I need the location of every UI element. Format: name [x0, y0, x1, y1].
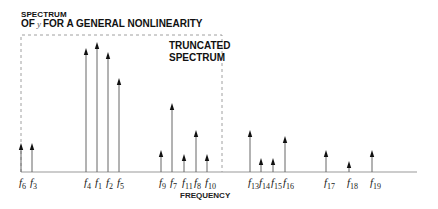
arrowhead-icon	[170, 103, 174, 110]
frequency-label-f8: f8	[194, 176, 201, 191]
arrowhead-icon	[159, 150, 163, 157]
frequency-label-f19: f19	[370, 176, 381, 191]
arrowhead-icon	[194, 130, 198, 137]
frequency-label-f16: f16	[283, 176, 294, 191]
arrowhead-icon	[205, 154, 209, 161]
arrowhead-icon	[324, 150, 328, 157]
frequency-label-f2: f2	[106, 176, 113, 191]
arrowhead-icon	[30, 143, 34, 150]
arrowhead-icon	[271, 158, 275, 165]
arrowhead-icon	[84, 48, 88, 55]
arrowhead-icon	[347, 161, 351, 168]
truncated-label-line2: SPECTRUM	[169, 52, 230, 64]
arrowhead-icon	[370, 150, 374, 157]
arrowhead-icon	[182, 154, 186, 161]
arrowhead-icon	[259, 158, 263, 165]
frequency-label-f3: f3	[30, 176, 37, 191]
truncated-label-line1: TRUNCATED	[169, 40, 230, 52]
frequency-label-f7: f7	[170, 176, 177, 191]
frequency-label-f11: f11	[182, 176, 193, 191]
spectrum-diagram: SPECTRUM OFyFOR A GENERAL NONLINEARITY T…	[0, 0, 438, 209]
frequency-label-f6: f6	[19, 176, 26, 191]
arrowhead-icon	[106, 52, 110, 59]
truncated-spectrum-label: TRUNCATED SPECTRUM	[169, 40, 230, 64]
arrowhead-icon	[95, 42, 99, 49]
frequency-label-f18: f18	[347, 176, 358, 191]
frequency-label-f9: f9	[159, 176, 166, 191]
arrowhead-icon	[19, 143, 23, 150]
frequency-label-f15: f15	[271, 176, 282, 191]
arrowhead-icon	[283, 136, 287, 143]
frequency-label-f17: f17	[324, 176, 335, 191]
frequency-label-f13: f13	[248, 176, 259, 191]
arrowhead-icon	[248, 130, 252, 137]
frequency-label-f4: f4	[84, 176, 91, 191]
frequency-label-f5: f5	[117, 176, 124, 191]
arrowhead-icon	[117, 78, 121, 85]
frequency-label-f14: f14	[259, 176, 270, 191]
x-axis-label: FREQUENCY	[180, 191, 230, 200]
frequency-label-f1: f1	[95, 176, 102, 191]
frequency-label-f10: f10	[205, 176, 216, 191]
